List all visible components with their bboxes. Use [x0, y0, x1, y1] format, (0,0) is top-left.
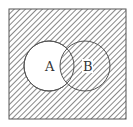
set-a-label: A [44, 59, 55, 74]
venn-diagram: A B [0, 0, 133, 127]
set-b-label: B [83, 59, 93, 74]
